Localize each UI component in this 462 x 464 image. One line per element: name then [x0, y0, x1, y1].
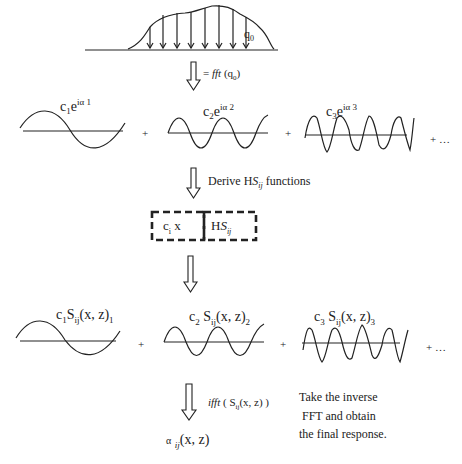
derive-label: Derive HSij functions [208, 175, 310, 190]
wave-2b [164, 324, 264, 356]
down-arrow-icon [187, 168, 200, 198]
term3-label: c3eiα 3 [326, 103, 357, 121]
plus-sign: + [280, 339, 286, 350]
fft-label: = fft (q0) [203, 68, 240, 82]
term2-3-label: c3 Sij(x, z)3 [314, 310, 375, 327]
note-text: Take the inverse FFT and obtain the fina… [299, 388, 387, 444]
down-arrow-icon [187, 62, 200, 90]
load-label: q0 [244, 28, 254, 43]
down-arrow-icon [182, 384, 196, 420]
ellipsis: + … [426, 342, 446, 353]
term2-1-label: c1Sij(x, z)1 [56, 308, 114, 325]
load-arrows [147, 5, 249, 48]
plus-sign: + [138, 339, 144, 350]
down-arrow-icon [184, 256, 197, 292]
box-right-label: HSij [211, 219, 231, 236]
plus-sign: + [285, 128, 291, 139]
wave-row-2 [16, 321, 408, 362]
plus-sign: + [142, 128, 148, 139]
result-label: α ij(x, z) [166, 433, 209, 450]
box-left-label: ci x [163, 219, 181, 236]
wave-3 [305, 116, 414, 152]
term2-label: c2eiα 2 [203, 103, 234, 121]
ifft-label: ifft ( Sij(x, z) ) [208, 397, 269, 411]
ellipsis: + … [430, 134, 450, 145]
term1-label: c1eiα 1 [60, 98, 91, 116]
wave-1b [16, 321, 120, 355]
wave-1 [20, 111, 125, 148]
term2-2-label: c2 Sij(x, z)2 [189, 310, 250, 327]
